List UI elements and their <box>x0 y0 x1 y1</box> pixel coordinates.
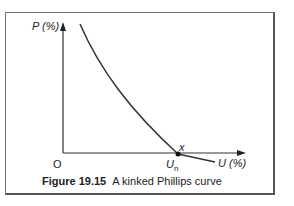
kinked-segment <box>178 154 215 162</box>
phillips-curve <box>80 24 178 154</box>
x-axis-label: U (%) <box>218 157 246 169</box>
y-axis-arrow-icon <box>60 22 66 31</box>
natural-rate-label: Un <box>166 158 178 173</box>
origin-label: O <box>53 158 62 170</box>
y-axis-label: P (%) <box>32 20 59 32</box>
figure-caption: Figure 19.15 A kinked Phillips curve <box>42 175 222 187</box>
x-axis-arrow-icon <box>237 150 246 156</box>
kink-label: x <box>179 141 185 153</box>
